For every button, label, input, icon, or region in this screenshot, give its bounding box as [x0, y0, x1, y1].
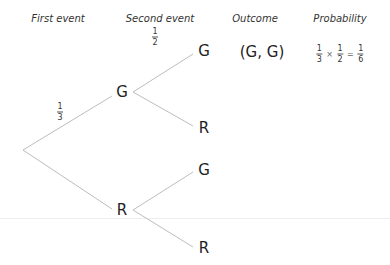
fraction-numerator: 1 [317, 45, 322, 53]
branch-G-to-G [133, 54, 193, 92]
outcome-G-G: (G, G) [240, 43, 285, 61]
fraction-one-half: 1 2 [337, 45, 343, 64]
fraction-one-sixth: 1 6 [358, 45, 364, 64]
fraction-numerator: 1 [152, 28, 157, 36]
header-probability: Probability [313, 13, 366, 24]
fraction-denominator: 2 [337, 56, 342, 64]
branch-R-to-G [133, 172, 193, 210]
fraction-numerator: 1 [358, 45, 363, 53]
fraction-denominator: 2 [152, 39, 157, 47]
fraction-one-half: 1 2 [152, 28, 158, 47]
node-G-then-R: R [199, 121, 209, 136]
node-G-then-G: G [198, 44, 210, 59]
fraction-denominator: 6 [358, 56, 363, 64]
fraction-denominator: 3 [57, 114, 62, 122]
fraction-one-third: 1 3 [57, 103, 63, 122]
branch-R-to-R [133, 210, 193, 247]
probability-calculation: 1 3 × 1 2 = 1 6 [316, 45, 363, 64]
node-first-R: R [117, 203, 127, 218]
tree-branches [0, 0, 390, 265]
node-first-G: G [116, 85, 128, 100]
fraction-denominator: 3 [317, 56, 322, 64]
header-second-event: Second event [126, 13, 194, 24]
header-outcome: Outcome [232, 13, 278, 24]
equals-sign: = [347, 50, 354, 59]
fraction-one-third: 1 3 [316, 45, 322, 64]
node-R-then-G: G [198, 163, 210, 178]
times-sign: × [326, 50, 333, 59]
branch-root-to-G [23, 96, 112, 150]
node-R-then-R: R [199, 241, 209, 256]
fraction-numerator: 1 [337, 45, 342, 53]
branch-root-to-R [23, 150, 112, 209]
header-first-event: First event [31, 13, 84, 24]
fraction-numerator: 1 [57, 103, 62, 111]
branch-G-to-R [133, 92, 193, 126]
